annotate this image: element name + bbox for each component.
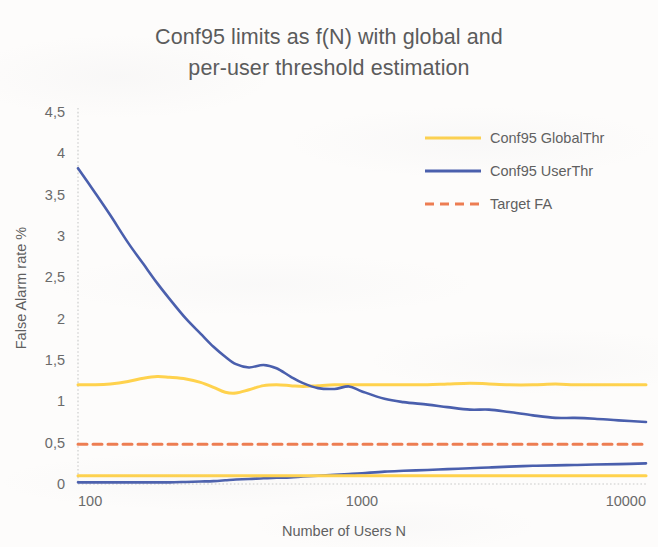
y-tick-label: 2,5 — [45, 269, 65, 285]
chart-container: Conf95 limits as f(N) with global and pe… — [0, 0, 658, 547]
x-axis-title: Number of Users N — [282, 523, 406, 539]
chart-series-group — [78, 168, 646, 482]
legend-label: Conf95 GlobalThr — [490, 130, 605, 146]
series-line-user_lower — [78, 463, 646, 482]
y-tick-label: 0,5 — [45, 435, 65, 451]
chart-plot: 00,511,522,533,544,5 100100010000 Conf95… — [0, 0, 658, 547]
x-tick-label: 10000 — [606, 493, 646, 509]
y-tick-label: 4,5 — [45, 104, 65, 120]
y-tick-label: 3 — [57, 228, 65, 244]
chart-legend: Conf95 GlobalThrConf95 UserThrTarget FA — [425, 130, 605, 212]
y-tick-label: 0 — [57, 476, 65, 492]
y-axis-tick-labels: 00,511,522,533,544,5 — [45, 104, 65, 492]
y-tick-label: 4 — [57, 145, 65, 161]
y-tick-label: 1 — [57, 393, 65, 409]
y-tick-label: 3,5 — [45, 187, 65, 203]
y-axis-title: False Alarm rate % — [13, 227, 29, 350]
y-tick-label: 2 — [57, 311, 65, 327]
x-axis-tick-labels: 100100010000 — [78, 493, 646, 509]
y-tick-label: 1,5 — [45, 352, 65, 368]
legend-label: Conf95 UserThr — [490, 163, 593, 179]
legend-label: Target FA — [490, 196, 552, 212]
x-tick-label: 1000 — [346, 493, 378, 509]
x-tick-label: 100 — [78, 493, 102, 509]
